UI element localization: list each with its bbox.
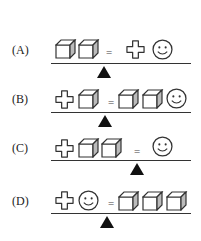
cube-icon: [142, 89, 164, 109]
option-b[interactable]: (B) =: [0, 88, 201, 136]
option-label: (D): [12, 194, 29, 209]
cross-icon: [55, 90, 74, 109]
option-label: (C): [12, 141, 28, 156]
balance-beam: [51, 160, 191, 161]
cube-icon: [78, 138, 100, 158]
fulcrum-triangle-icon: [98, 115, 112, 127]
smiley-icon: [152, 136, 173, 157]
equals-sign: =: [108, 197, 114, 209]
cross-icon: [55, 191, 74, 210]
option-label: (B): [12, 92, 28, 107]
equals-sign: =: [106, 46, 112, 58]
cross-icon: [126, 40, 145, 59]
smiley-icon: [78, 190, 99, 211]
balance-beam: [51, 213, 191, 214]
fulcrum-triangle-icon: [97, 66, 111, 78]
cube-icon: [142, 191, 164, 211]
option-c[interactable]: (C) =: [0, 137, 201, 185]
cube-icon: [118, 191, 140, 211]
smiley-icon: [152, 39, 173, 60]
cube-icon: [166, 191, 188, 211]
fulcrum-triangle-icon: [130, 163, 144, 175]
option-a[interactable]: (A) =: [0, 38, 201, 86]
equals-sign: =: [108, 96, 114, 108]
equals-sign: =: [134, 145, 140, 157]
cube-icon: [78, 39, 100, 59]
fulcrum-triangle-icon: [100, 216, 114, 228]
cube-icon: [101, 138, 123, 158]
smiley-icon: [166, 88, 187, 109]
option-d[interactable]: (D) =: [0, 190, 201, 238]
cube-icon: [78, 89, 100, 109]
balance-beam: [51, 112, 191, 113]
option-label: (A): [12, 43, 29, 58]
cube-icon: [118, 89, 140, 109]
cross-icon: [55, 139, 74, 158]
cube-icon: [55, 39, 77, 59]
balance-beam: [51, 63, 191, 64]
